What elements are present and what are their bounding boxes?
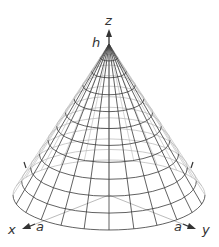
meridian-front [16,44,109,204]
radius-x-label: a [36,219,44,234]
meridian-front [109,44,202,204]
y-axis-label: y [201,222,210,237]
cone-front-grid [13,44,205,230]
z-arrow-icon [106,29,112,37]
height-label: h [92,35,100,50]
cone-diagram: z h x y a a [0,0,219,247]
meridian-front [109,44,134,229]
meridian-front [84,44,109,229]
x-arrow-icon [22,223,31,229]
right-tick [191,162,193,168]
left-tick [24,162,26,168]
meridian-back [109,44,177,170]
x-axis-label: x [7,222,16,237]
y-arrow-icon [187,223,196,229]
radius-y-label: a [174,219,182,234]
meridian-back [41,44,109,170]
z-axis-label: z [104,13,113,28]
